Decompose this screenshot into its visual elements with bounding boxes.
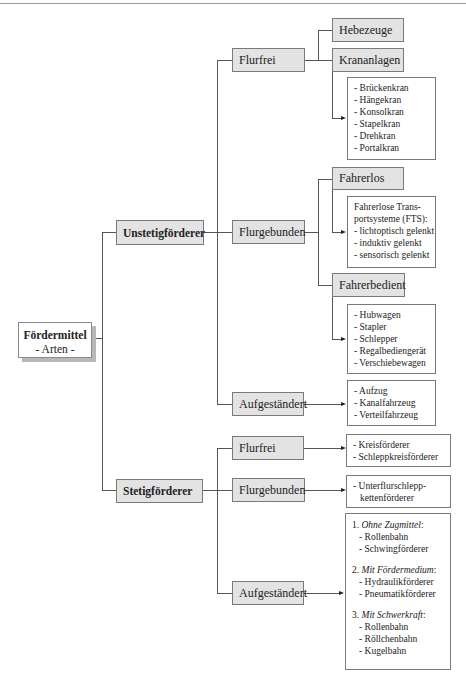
node-unstetig-flurgebunden: Flurgebunden [232,220,305,244]
list-item: - Hubwagen [354,309,429,321]
list-item: Fahrerlose Trans- [354,201,429,213]
node-label: Unstetigförderer [123,227,205,239]
group-heading: 1. Ohne Zugmittel: [352,519,444,531]
connector [305,490,342,491]
list-stetig-flurfrei: - Kreisförderer - Schleppkreisförderer [346,434,451,467]
list-item: - Portalkran [354,142,429,154]
node-label: Flurgebunden [239,483,305,498]
list-stetig-aufgestaendert: 1. Ohne Zugmittel: - Rollenbahn - Schwin… [345,513,451,670]
node-label: Aufgeständert [239,586,307,601]
list-item: - Schlepper [354,333,429,345]
connector [217,593,232,594]
arrow-icon [341,337,346,341]
connector [217,60,232,61]
list-unstetig-aufgestaendert: - Aufzug - Kanalfahrzeug - Verteilfahrze… [347,380,436,426]
node-label: Flurfrei [239,53,276,68]
list-item: - Schwingförderer [352,543,444,555]
list-item: - Aufzug [354,385,429,397]
connector [217,490,232,491]
connector [304,593,340,594]
list-item: - Kugelbahn [352,645,444,657]
connector [217,448,232,449]
connector [305,232,318,233]
list-fts: Fahrerlose Trans- portsysteme (FTS): - l… [347,196,436,268]
list-item: - sensorisch gelenkt [354,249,429,261]
node-stetig-flurfrei: Flurfrei [232,436,304,460]
list-item: - Hängekran [354,94,429,106]
connector [318,30,319,60]
list-item: - Hydraulikförderer [352,576,444,588]
node-unstetig-aufgestaendert: Aufgeständert [232,392,304,416]
node-label: Flurfrei [239,441,276,456]
root-subtitle: - Arten - [19,342,91,356]
list-fahrerbedient: - Hubwagen - Stapler - Schlepper - Regal… [347,304,436,374]
group-number: 3. [352,610,359,620]
list-item: - Kreisförderer [353,439,444,451]
connector [102,490,116,491]
connector [305,60,332,61]
arrow-icon [341,230,346,234]
group-number: 2. [352,565,359,575]
connector [332,297,333,340]
group-title: Ohne Zugmittel [362,520,421,530]
list-item: - Konsolkran [354,106,429,118]
node-fahrerlos: Fahrerlos [332,167,404,190]
list-item: - Schleppkreisförderer [353,451,444,463]
list-item: - induktiv gelenkt [354,237,429,249]
list-krane: - Brückenkran - Hängekran - Konsolkran -… [347,77,436,160]
node-label: Krananlagen [339,53,400,68]
node-label: Stetigförderer [123,485,192,497]
list-item: kettenförderer [353,492,444,504]
group-heading: 3. Mit Schwerkraft: [352,609,444,621]
list-stetig-flurgebunden: - Unterflurschlepp- kettenförderer [346,475,451,508]
node-label: Fahrerlos [339,171,384,186]
node-stetig-aufgestaendert: Aufgeständert [232,581,304,605]
connector [102,232,116,233]
connector [318,285,332,286]
group-title: Mit Schwerkraft [362,610,423,620]
group-title: Mit Fördermedium [362,565,434,575]
list-item: - Stapelkran [354,118,429,130]
connector [332,72,333,119]
list-item: - Brückenkran [354,82,429,94]
list-item: - Regalbediengerät [354,345,429,357]
list-item: - Rollenbahn [352,531,444,543]
list-item: - Stapler [354,321,429,333]
node-fahrerbedient: Fahrerbedient [332,273,405,297]
group-number: 1. [352,520,359,530]
connector [217,404,232,405]
node-label: Flurgebunden [239,225,305,240]
page-top-rule [0,3,466,4]
node-label: Aufgeständert [239,397,307,412]
arrow-icon [341,402,346,406]
node-krananlagen: Krananlagen [332,48,404,72]
list-item: portsysteme (FTS): [354,213,429,225]
list-item: - Unterflurschlepp- [353,480,444,492]
arrow-icon [339,591,344,595]
node-hebezeuge: Hebezeuge [332,18,404,42]
connector [217,232,232,233]
connector [217,448,218,594]
connector [304,448,342,449]
node-unstetig-flurfrei: Flurfrei [232,48,305,72]
connector [304,404,342,405]
list-item: - Verschiebewagen [354,357,429,369]
connector [204,232,218,233]
node-stetigfoerderer: Stetigförderer [116,479,203,503]
node-label: Hebezeuge [339,23,392,38]
root-title: Fördermittel [19,328,91,342]
connector [318,179,332,180]
node-unstetigfoerderer: Unstetigförderer [116,220,204,245]
list-item: - Pneumatikförderer [352,588,444,600]
node-stetig-flurgebunden: Flurgebunden [232,478,305,502]
list-item: - Drehkran [354,130,429,142]
connector [318,179,319,286]
arrow-icon [341,116,346,120]
connector [332,190,333,233]
list-item: - Kanalfahrzeug [354,397,429,409]
group-heading: 2. Mit Fördermedium: [352,564,444,576]
list-item: - Röllchenbahn [352,633,444,645]
list-item: - Verteilfahrzeug [354,409,429,421]
list-item: - Rollenbahn [352,621,444,633]
node-label: Fahrerbedient [339,278,406,293]
